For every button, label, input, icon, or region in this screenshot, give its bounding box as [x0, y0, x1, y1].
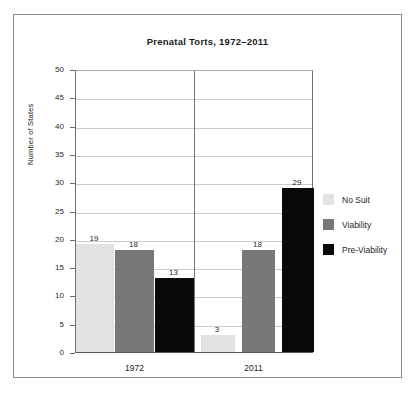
legend-swatch-icon	[323, 244, 334, 255]
legend-item[interactable]: Pre-Viability	[323, 237, 387, 262]
legend-swatch-icon	[323, 194, 334, 205]
bar-2011-no-suit[interactable]	[201, 335, 235, 352]
y-axis-tick-label: 50	[30, 65, 64, 74]
bar-2011-pre-viability[interactable]	[282, 188, 314, 352]
x-axis-category-label: 2011	[194, 363, 314, 373]
legend-item[interactable]: No Suit	[323, 187, 387, 212]
legend-item-label: Viability	[342, 220, 371, 230]
chart-figure-frame: Prenatal Torts, 1972–2011 Number of Stat…	[13, 14, 402, 378]
bar-2011-viability[interactable]	[242, 250, 275, 352]
bar-value-label: 29	[277, 178, 317, 187]
legend-item-label: No Suit	[342, 195, 370, 205]
bar-1972-pre-viability[interactable]	[155, 278, 194, 352]
y-axis-tick-label: 40	[30, 122, 64, 131]
bar-1972-no-suit[interactable]	[76, 244, 114, 352]
y-axis-tick-label: 20	[30, 235, 64, 244]
bar-value-label: 3	[197, 325, 237, 334]
bar-value-label: 18	[114, 240, 154, 249]
legend-item[interactable]: Viability	[323, 212, 387, 237]
plot-area	[75, 70, 313, 353]
y-axis-tick-label: 30	[30, 178, 64, 187]
category-divider	[194, 71, 195, 352]
y-axis-tick-label: 25	[30, 207, 64, 216]
y-axis-tick	[70, 353, 75, 354]
legend-swatch-icon	[323, 219, 334, 230]
chart-legend: No SuitViabilityPre-Viability	[323, 187, 387, 262]
bar-value-label: 18	[238, 240, 278, 249]
y-axis-tick-label: 10	[30, 291, 64, 300]
y-axis-tick-label: 15	[30, 263, 64, 272]
y-axis-tick-label: 35	[30, 150, 64, 159]
x-axis-category-label: 1972	[75, 363, 195, 373]
bar-value-label: 13	[154, 268, 194, 277]
y-axis-tick-label: 5	[30, 320, 64, 329]
y-axis-tick-label: 45	[30, 93, 64, 102]
bar-value-label: 19	[74, 234, 114, 243]
chart-title: Prenatal Torts, 1972–2011	[14, 36, 401, 47]
bar-1972-viability[interactable]	[115, 250, 154, 352]
legend-item-label: Pre-Viability	[342, 245, 387, 255]
y-axis-tick-label: 0	[30, 348, 64, 357]
